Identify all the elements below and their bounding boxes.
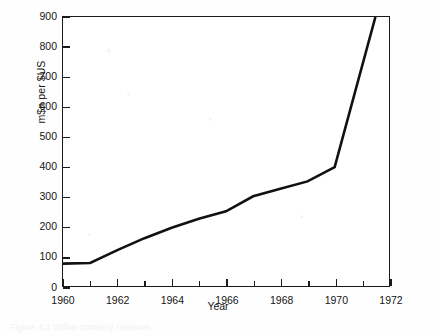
y-tick-label: 800 xyxy=(39,40,57,52)
chart-figure: m$n per $US 0100200300400500600700800900… xyxy=(0,0,436,335)
y-tick-label: 0 xyxy=(51,281,57,293)
y-tick-mark xyxy=(63,287,70,288)
x-axis-label: Year xyxy=(0,300,436,312)
scan-speck xyxy=(107,48,110,53)
y-tick-label: 300 xyxy=(39,190,57,202)
caption-remnant: Figure 4.1 Dollar currency reserves xyxy=(10,322,151,332)
scan-speck xyxy=(127,93,130,96)
y-tick-label: 400 xyxy=(39,160,57,172)
x-tick-mark xyxy=(390,279,391,286)
y-tick-label: 100 xyxy=(39,250,57,262)
y-tick-label: 700 xyxy=(39,70,57,82)
data-series-layer xyxy=(63,17,389,286)
y-tick-label: 200 xyxy=(39,220,57,232)
scan-speck xyxy=(88,233,91,236)
y-tick-label: 500 xyxy=(39,130,57,142)
data-series-line xyxy=(63,17,375,264)
y-axis-label: m$n per $US xyxy=(35,7,47,177)
scan-speck xyxy=(209,118,212,121)
scan-speck xyxy=(300,215,303,218)
plot-area: 0100200300400500600700800900 19601962196… xyxy=(62,16,390,287)
y-tick-label: 900 xyxy=(39,10,57,22)
y-tick-label: 600 xyxy=(39,100,57,112)
